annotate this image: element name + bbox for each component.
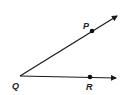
- point-p: [90, 29, 95, 34]
- label-r: R: [86, 82, 93, 92]
- ray-qr: [20, 76, 116, 78]
- label-p: P: [83, 21, 90, 31]
- angle-pqr-diagram: P Q R: [0, 0, 132, 95]
- ray-qp: [20, 16, 117, 76]
- label-q: Q: [12, 81, 19, 91]
- point-r: [88, 75, 93, 80]
